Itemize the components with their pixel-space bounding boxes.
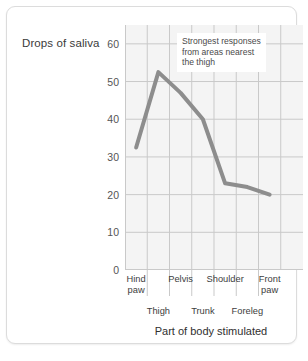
x-axis-block: HindpawThighPelvisTrunkShoulderForelegFr… (119, 270, 303, 345)
y-axis-tick-0: 0 (85, 264, 119, 276)
x-axis-title: Part of body stimulated (119, 325, 303, 337)
annotation-line-3: the thigh (182, 57, 261, 68)
annotation-line-1: Strongest responses (182, 36, 261, 47)
x-axis-label-front-paw: Frontpaw (259, 274, 281, 295)
y-axis-tick-60: 60 (85, 38, 119, 50)
x-axis-label-line-1: Front (259, 274, 281, 285)
y-axis-tick-30: 30 (85, 151, 119, 163)
y-axis-tick-20: 20 (85, 189, 119, 201)
y-axis-tick-40: 40 (85, 113, 119, 125)
x-axis-label-trunk: Trunk (191, 306, 214, 317)
figure-card: Drops of saliva 6050403020100 Strongest … (6, 6, 297, 344)
x-axis-label-line-2: paw (127, 285, 146, 296)
y-axis-tick-10: 10 (85, 226, 119, 238)
x-axis-label-line-1: Pelvis (168, 274, 193, 285)
plot-wrap: 6050403020100 Strongest responses from a… (119, 25, 303, 270)
annotation-line-2: from areas nearest (182, 47, 261, 58)
annotation-strongest-responses: Strongest responses from areas nearest t… (177, 33, 266, 72)
x-axis-label-shoulder: Shoulder (207, 274, 244, 285)
x-axis-label-line-1: Hind (127, 274, 146, 285)
plot-area: Strongest responses from areas nearest t… (125, 25, 303, 270)
x-axis-label-pelvis: Pelvis (168, 274, 193, 285)
x-axis-label-hind-paw: Hindpaw (127, 274, 146, 295)
x-axis-label-line-2: paw (259, 285, 281, 296)
x-axis-label-thigh: Thigh (147, 306, 170, 317)
y-axis-tick-50: 50 (85, 76, 119, 88)
x-axis-label-line-1: Shoulder (207, 274, 244, 285)
x-axis-label-foreleg: Foreleg (232, 306, 264, 317)
